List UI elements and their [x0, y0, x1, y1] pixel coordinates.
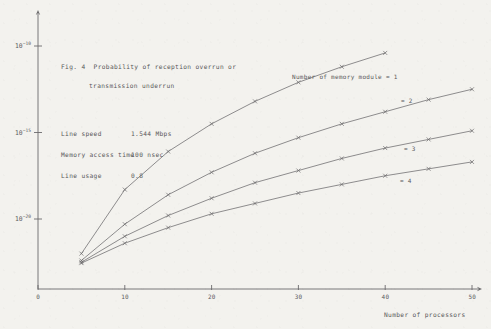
param-value-line-speed: 1.544 Mbps — [131, 130, 172, 137]
data-point-marker — [166, 150, 170, 154]
data-point-marker — [210, 196, 214, 200]
x-axis-title: Number of processors — [384, 311, 466, 318]
param-value-line-usage: 0.8 — [131, 172, 143, 179]
x-axis-tick-label: 10 — [121, 293, 129, 300]
data-point-marker — [340, 65, 344, 69]
data-point-marker — [166, 193, 170, 197]
figure-caption-line-2: transmission underrun — [89, 82, 175, 89]
data-point-marker — [79, 261, 83, 265]
y-axis-tick-label: 10−10 — [15, 41, 31, 50]
data-point-marker — [210, 170, 214, 174]
data-point-marker — [123, 222, 127, 226]
x-axis-tick-label: 40 — [382, 293, 390, 300]
data-point-marker — [123, 234, 127, 238]
data-point-marker — [296, 169, 300, 173]
data-point-marker — [296, 136, 300, 140]
data-point-marker — [253, 181, 257, 185]
data-point-marker — [253, 151, 257, 155]
x-axis-tick-label: 50 — [468, 293, 476, 300]
series-annotation-module-1: Number of memory module = 1 — [292, 73, 398, 80]
x-axis-tick-label: 0 — [36, 293, 40, 300]
data-point-marker — [296, 80, 300, 84]
param-label-line-usage: Line usage — [61, 172, 102, 179]
chart-plot-area — [0, 0, 491, 329]
x-axis-tick-label: 20 — [208, 293, 216, 300]
data-point-marker — [383, 51, 387, 55]
data-point-marker — [253, 99, 257, 103]
data-point-marker — [79, 252, 83, 256]
data-point-marker — [123, 241, 127, 245]
data-point-marker — [123, 188, 127, 192]
figure-panel: 10−10 10−15 10−20 01020304050 Fig. 4 Pro… — [0, 0, 491, 329]
data-point-marker — [166, 226, 170, 230]
data-point-marker — [210, 122, 214, 126]
param-label-line-speed: Line speed — [61, 130, 102, 137]
data-point-marker — [340, 122, 344, 126]
param-label-memory-access-time: Memory access time — [61, 151, 134, 158]
figure-caption-line-1: Fig. 4 Probability of reception overrun … — [61, 63, 236, 70]
param-value-memory-access-time: 100 nsec — [131, 151, 164, 158]
x-axis-tick-label: 30 — [295, 293, 303, 300]
data-point-marker — [166, 214, 170, 218]
series-annotation-module-3: = 3 — [404, 145, 416, 152]
data-point-marker — [383, 110, 387, 114]
series-annotation-module-4: = 4 — [400, 177, 412, 184]
y-axis-tick-label: 10−20 — [15, 214, 31, 223]
series-annotation-module-2: = 2 — [401, 97, 413, 104]
y-axis-tick-label: 10−15 — [15, 128, 31, 137]
